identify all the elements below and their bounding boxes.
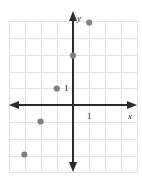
data-point xyxy=(54,85,60,91)
coordinate-plane-figure: y x 1 1 xyxy=(0,0,142,179)
data-point xyxy=(86,19,92,25)
y-axis-arrow-down xyxy=(69,162,77,172)
y-axis-arrow-up xyxy=(69,11,77,21)
plot-canvas: y x 1 1 xyxy=(0,0,142,179)
x-axis-label: x xyxy=(127,111,132,121)
y-axis-label: y xyxy=(76,13,81,23)
y-axis-unit-label: 1 xyxy=(64,83,69,93)
x-axis-arrow-left xyxy=(9,101,19,109)
data-point xyxy=(70,52,76,58)
y-axis xyxy=(69,11,77,172)
data-point xyxy=(21,151,27,157)
data-point xyxy=(38,118,44,124)
x-axis-unit-label: 1 xyxy=(87,111,92,121)
x-axis-arrow-right xyxy=(127,101,137,109)
